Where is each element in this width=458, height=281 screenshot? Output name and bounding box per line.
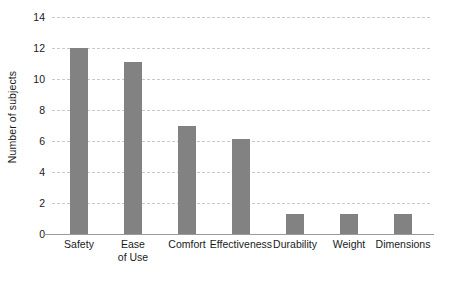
y-tick-label: 6 [39, 136, 52, 147]
y-tick-label: 2 [39, 198, 52, 209]
bar-chart: Number of subjects 02468101214 SafetyEas… [0, 0, 458, 281]
y-tick-label: 10 [33, 74, 52, 85]
bar[interactable] [286, 214, 304, 234]
bar[interactable] [340, 214, 358, 234]
bar[interactable] [178, 126, 196, 235]
plot-area: 02468101214 [52, 17, 430, 234]
x-tick-label: Safety [64, 238, 94, 251]
y-tick-label: 4 [39, 167, 52, 178]
bars-group [52, 17, 430, 234]
x-tick-label: Durability [273, 238, 317, 251]
x-axis-labels: SafetyEase of UseComfortEffectivenessDur… [52, 238, 430, 280]
y-axis-title: Number of subjects [2, 0, 22, 234]
x-tick-label: Dimensions [376, 238, 431, 251]
x-tick-label: Ease of Use [118, 238, 148, 264]
bar[interactable] [232, 139, 250, 234]
x-tick-label: Effectiveness [210, 238, 272, 251]
x-tick-label: Comfort [168, 238, 205, 251]
y-tick-label: 8 [39, 105, 52, 116]
bar[interactable] [124, 62, 142, 234]
y-tick-label: 12 [33, 43, 52, 54]
x-tick-label: Weight [333, 238, 366, 251]
bar[interactable] [70, 48, 88, 234]
y-tick-label: 14 [33, 12, 52, 23]
x-axis-line [44, 234, 434, 235]
y-axis-title-text: Number of subjects [6, 71, 18, 163]
bar[interactable] [394, 214, 412, 234]
